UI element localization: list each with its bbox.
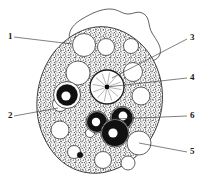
dark-inclusion bbox=[101, 119, 129, 147]
clear-vacuole bbox=[73, 34, 96, 57]
clear-vacuole bbox=[124, 39, 139, 54]
clear-vacuole bbox=[98, 39, 115, 56]
clear-vacuole bbox=[121, 156, 135, 170]
dark-inclusion bbox=[54, 82, 81, 109]
clear-vacuole bbox=[124, 63, 143, 82]
cell-diagram-svg: 123456 bbox=[0, 0, 201, 191]
small-dark-granule bbox=[77, 152, 83, 158]
label-number-6: 6 bbox=[190, 110, 195, 120]
label-number-1: 1 bbox=[8, 31, 13, 41]
clear-vacuole bbox=[95, 152, 112, 169]
label-number-3: 3 bbox=[190, 32, 195, 42]
label-number-5: 5 bbox=[190, 146, 195, 156]
label-number-2: 2 bbox=[8, 110, 13, 120]
leader-line-1 bbox=[14, 37, 72, 44]
clear-vacuole bbox=[132, 87, 150, 105]
clear-vacuole bbox=[51, 121, 69, 139]
label-number-4: 4 bbox=[190, 72, 195, 82]
cell-diagram-figure: 123456 bbox=[0, 0, 201, 191]
